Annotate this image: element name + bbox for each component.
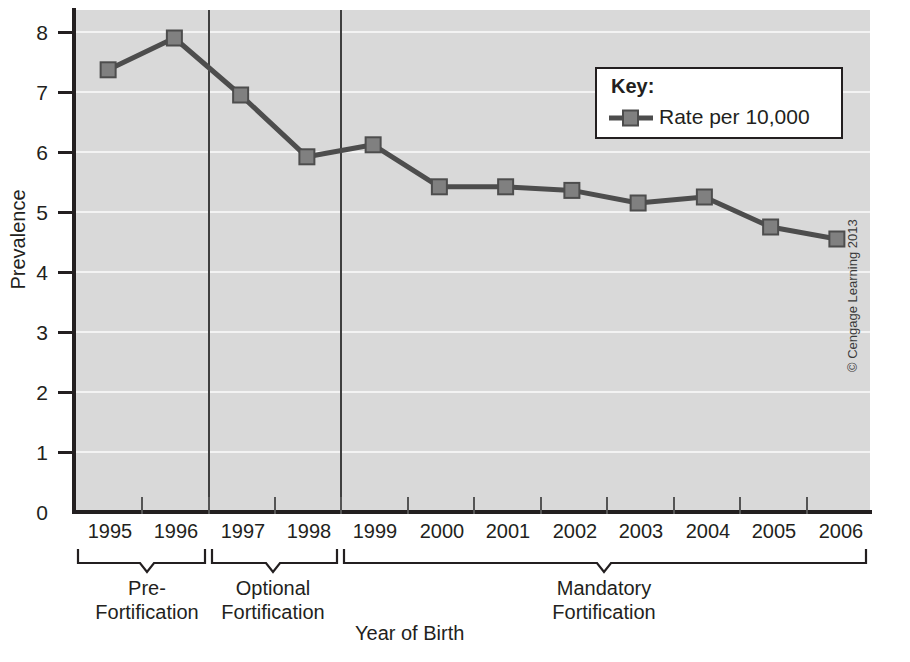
legend-entry-label: Rate per 10,000 — [659, 105, 810, 129]
bracket-label-mandatory-fortification-line2: Fortification — [539, 600, 669, 624]
x-tick-label-2000: 2000 — [407, 520, 477, 542]
x-tick-label-2001: 2001 — [473, 520, 543, 542]
y-tick-label-3: 3 — [20, 322, 48, 343]
x-tick-label-2006: 2006 — [806, 520, 876, 542]
x-tick-label-1995: 1995 — [75, 520, 145, 542]
x-tick-mark-9 — [739, 497, 741, 514]
x-tick-label-2002: 2002 — [540, 520, 610, 542]
bracket-label-mandatory-fortification-line1: Mandatory — [539, 576, 669, 600]
y-axis-title: Prevalence — [7, 160, 30, 320]
period-divider-optional-mandatory — [340, 10, 342, 512]
legend-line-marker-icon — [609, 109, 653, 127]
x-tick-label-2004: 2004 — [673, 520, 743, 542]
gridline-3 — [75, 331, 870, 333]
bracket-label-pre-fortification-line1: Pre- — [82, 576, 212, 600]
chart-figure: Prevalence 8 7 6 5 4 3 2 1 0 1995 — [0, 0, 910, 662]
period-divider-pre-optional — [208, 10, 210, 512]
legend-box: Key: Rate per 10,000 — [595, 67, 843, 139]
x-tick-label-1998: 1998 — [274, 520, 344, 542]
gridline-2 — [75, 391, 870, 393]
x-tick-mark-4 — [407, 497, 409, 514]
x-tick-mark-7 — [606, 497, 608, 514]
copyright-credit: © Cengage Learning 2013 — [845, 222, 860, 372]
bracket-label-mandatory-fortification: Mandatory Fortification — [539, 576, 669, 624]
x-tick-mark-6 — [540, 497, 542, 514]
y-tick-label-2: 2 — [20, 382, 48, 403]
bracket-label-optional-fortification-line2: Fortification — [208, 600, 338, 624]
x-tick-label-1996: 1996 — [141, 520, 211, 542]
y-tick-label-7: 7 — [20, 82, 48, 103]
gridline-8 — [75, 31, 870, 33]
y-tick-label-5: 5 — [20, 202, 48, 223]
y-axis-line — [72, 8, 76, 514]
x-axis-line — [72, 510, 872, 514]
bracket-label-optional-fortification: Optional Fortification — [208, 576, 338, 624]
x-tick-mark-10 — [806, 497, 808, 514]
y-tick-label-0: 0 — [20, 502, 48, 523]
bracket-label-pre-fortification-line2: Fortification — [82, 600, 212, 624]
x-tick-mark-3 — [340, 497, 342, 514]
x-tick-label-1999: 1999 — [340, 520, 410, 542]
x-tick-mark-5 — [473, 497, 475, 514]
x-tick-label-2003: 2003 — [606, 520, 676, 542]
legend-title: Key: — [611, 75, 654, 98]
y-tick-label-8: 8 — [20, 22, 48, 43]
x-tick-mark-8 — [673, 497, 675, 514]
x-tick-mark-2 — [274, 497, 276, 514]
gridline-4 — [75, 271, 870, 273]
y-tick-label-4: 4 — [20, 262, 48, 283]
x-tick-mark-0 — [141, 497, 143, 514]
bracket-label-optional-fortification-line1: Optional — [208, 576, 338, 600]
x-tick-label-2005: 2005 — [739, 520, 809, 542]
y-tick-label-1: 1 — [20, 442, 48, 463]
bracket-label-pre-fortification: Pre- Fortification — [82, 576, 212, 624]
x-tick-mark-1 — [208, 497, 210, 514]
y-tick-label-6: 6 — [20, 142, 48, 163]
x-axis-title: Year of Birth — [355, 622, 464, 645]
gridline-5 — [75, 211, 870, 213]
gridline-1 — [75, 451, 870, 453]
gridline-6 — [75, 151, 870, 153]
x-tick-label-1997: 1997 — [208, 520, 278, 542]
